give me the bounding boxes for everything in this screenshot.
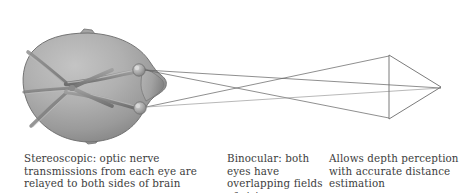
caption-binocular: Binocular: both eyes have overlapping fi… xyxy=(227,152,327,193)
head-illustration xyxy=(23,29,166,144)
eye-lower-highlight xyxy=(136,104,140,108)
caption-stereoscopic: Stereoscopic: optic nerve transmissions … xyxy=(24,152,214,190)
eye-lower xyxy=(134,102,146,114)
lines-of-sight xyxy=(145,56,441,118)
target-object-triangle xyxy=(389,55,441,119)
caption-depth: Allows depth perception with accurate di… xyxy=(329,152,469,190)
figure-root: Stereoscopic: optic nerve transmissions … xyxy=(0,0,472,193)
eye-upper xyxy=(133,64,145,76)
optic-chiasm xyxy=(69,85,75,91)
eye-upper-highlight xyxy=(135,66,139,70)
target-object xyxy=(389,55,441,119)
